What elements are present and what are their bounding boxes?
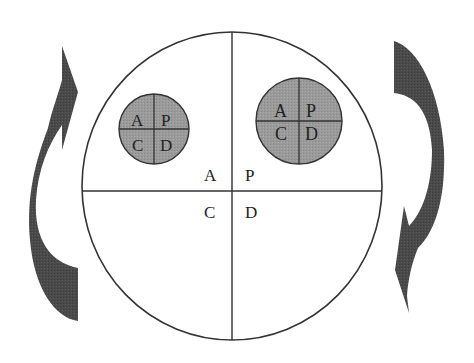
pdca-diagram: A P C D A P C D A P C D	[0, 0, 474, 363]
small-right-label-c: C	[275, 124, 287, 144]
small-left-label-a: A	[131, 111, 144, 130]
small-circle-left: A P C D	[119, 94, 189, 164]
curved-arrow-down-icon	[394, 41, 444, 313]
small-left-label-d: D	[160, 136, 172, 155]
curved-arrow-up-icon	[29, 46, 78, 321]
small-left-label-c: C	[132, 136, 143, 155]
main-label-d: D	[245, 203, 257, 222]
small-right-label-a: A	[274, 101, 287, 121]
main-label-a: A	[204, 166, 217, 185]
main-label-p: P	[245, 166, 254, 185]
main-circle: A P C D	[82, 32, 382, 340]
small-right-label-p: P	[306, 101, 316, 121]
small-right-label-d: D	[305, 124, 318, 144]
small-left-label-p: P	[161, 111, 170, 130]
small-circle-right: A P C D	[256, 78, 342, 164]
main-label-c: C	[204, 203, 215, 222]
